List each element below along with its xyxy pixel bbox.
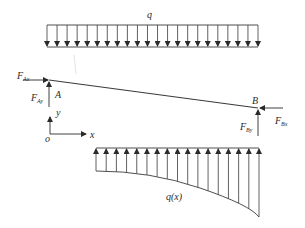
faint-artifact-line [74, 55, 76, 74]
uniform-load-q: q [47, 9, 258, 47]
label-F-Ay: FAy [30, 92, 43, 104]
label-F-Bx: FBx [274, 115, 288, 127]
force-F-Bx: FBx [260, 108, 288, 127]
force-F-Ay: FAy [30, 82, 49, 107]
label-origin: o [45, 133, 50, 144]
label-F-Ax: FAx [16, 70, 30, 82]
label-y-axis: y [55, 107, 61, 118]
label-q: q [147, 9, 152, 20]
top-load-arrows [47, 25, 258, 46]
label-F-By: FBy [239, 121, 253, 133]
force-F-By: FBy [239, 110, 258, 136]
label-point-A: A [54, 89, 62, 100]
varying-load-qx: q(x) [96, 148, 259, 217]
diagram-canvas: q FAx FAy A FBx FBy B y o x [0, 0, 305, 228]
label-point-B: B [252, 95, 258, 106]
label-x-axis: x [89, 129, 95, 140]
force-F-Ax: FAx [16, 70, 48, 82]
coordinate-axes: y o x [45, 107, 95, 144]
beam-line [49, 80, 258, 108]
label-q-of-x: q(x) [166, 191, 183, 203]
bottom-load-arrows [96, 149, 259, 217]
